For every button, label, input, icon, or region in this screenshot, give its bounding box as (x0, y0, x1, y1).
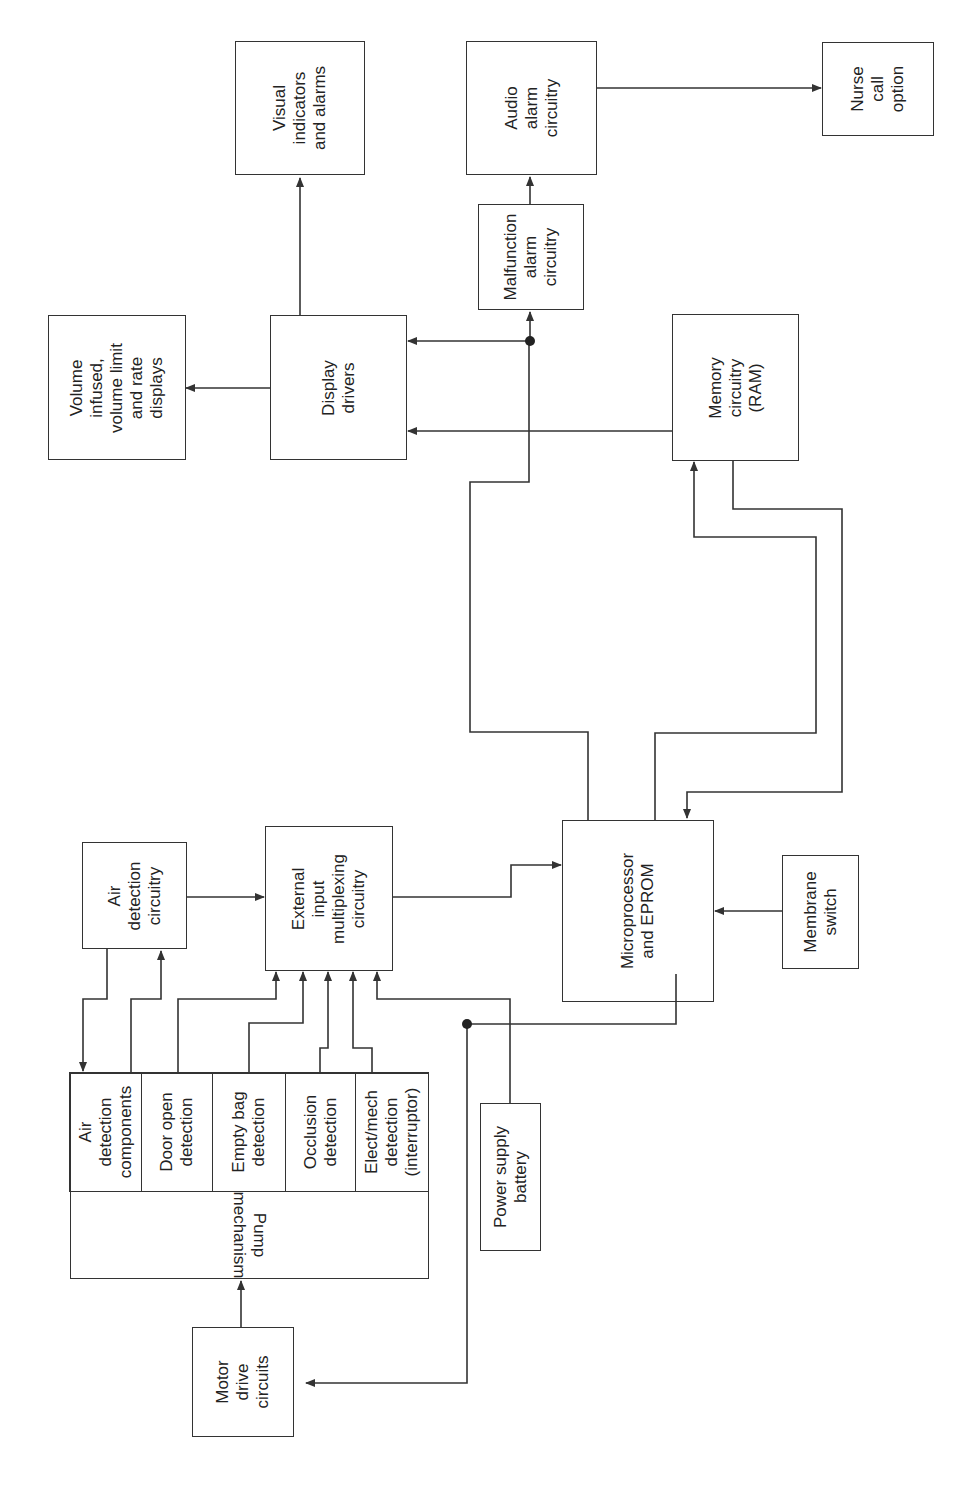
sensor-air-components: Air detection components (69, 1072, 142, 1192)
display-drivers-block: Display drivers (270, 315, 407, 460)
air-detection-circuitry-label: Air detection circuitry (105, 861, 165, 930)
malfunction-alarm-label: Malfunction alarm circuitry (501, 214, 561, 301)
pump-mechanism-block: Air detection components Door open detec… (70, 1073, 429, 1279)
display-drivers-label: Display drivers (319, 360, 359, 416)
power-supply-block: Power supply battery (480, 1103, 541, 1251)
memory-block: Memory circuitry (RAM) (672, 314, 799, 461)
microprocessor-label: Microprocessor and EPROM (618, 853, 658, 969)
sensor-occlusion-label: Occlusion detection (301, 1095, 341, 1170)
memory-label: Memory circuitry (RAM) (706, 357, 766, 418)
power-supply-label: Power supply battery (491, 1126, 531, 1228)
pump-mechanism-area: Pump mechanism (71, 1192, 427, 1277)
audio-alarm-label: Audio alarm circuitry (502, 79, 562, 138)
sensor-door-open-label: Door open detection (157, 1093, 197, 1172)
audio-alarm-block: Audio alarm circuitry (466, 41, 597, 175)
pump-mechanism-label: Pump mechanism (229, 1191, 269, 1278)
sensor-elect-mech-label: Elect/mech detection (interruptor) (362, 1088, 422, 1177)
motor-drive-block: Motor drive circuits (192, 1327, 294, 1437)
sensor-air-components-label: Air detection components (76, 1086, 136, 1179)
sensor-elect-mech: Elect/mech detection (interruptor) (355, 1072, 429, 1192)
external-input-block: External input multiplexing circuitry (265, 826, 393, 971)
visual-indicators-block: Visual indicators and alarms (235, 41, 365, 175)
nurse-call-block: Nurse call option (822, 42, 934, 136)
external-input-label: External input multiplexing circuitry (289, 854, 369, 944)
nurse-call-label: Nurse call option (848, 66, 908, 112)
membrane-switch-label: Membrane switch (801, 871, 841, 952)
motor-drive-label: Motor drive circuits (213, 1356, 273, 1409)
air-detection-circuitry-block: Air detection circuitry (82, 842, 187, 949)
malfunction-alarm-block: Malfunction alarm circuitry (478, 204, 584, 310)
sensor-empty-bag: Empty bag detection (212, 1072, 286, 1192)
visual-indicators-label: Visual indicators and alarms (270, 66, 330, 150)
volume-displays-block: Volume infused, volume limit and rate di… (48, 315, 186, 460)
volume-displays-label: Volume infused, volume limit and rate di… (67, 343, 167, 433)
membrane-switch-block: Membrane switch (782, 855, 859, 969)
microprocessor-block: Microprocessor and EPROM (562, 820, 714, 1002)
sensor-occlusion: Occlusion detection (285, 1072, 356, 1192)
sensor-door-open: Door open detection (141, 1072, 213, 1192)
sensor-empty-bag-label: Empty bag detection (229, 1092, 269, 1173)
